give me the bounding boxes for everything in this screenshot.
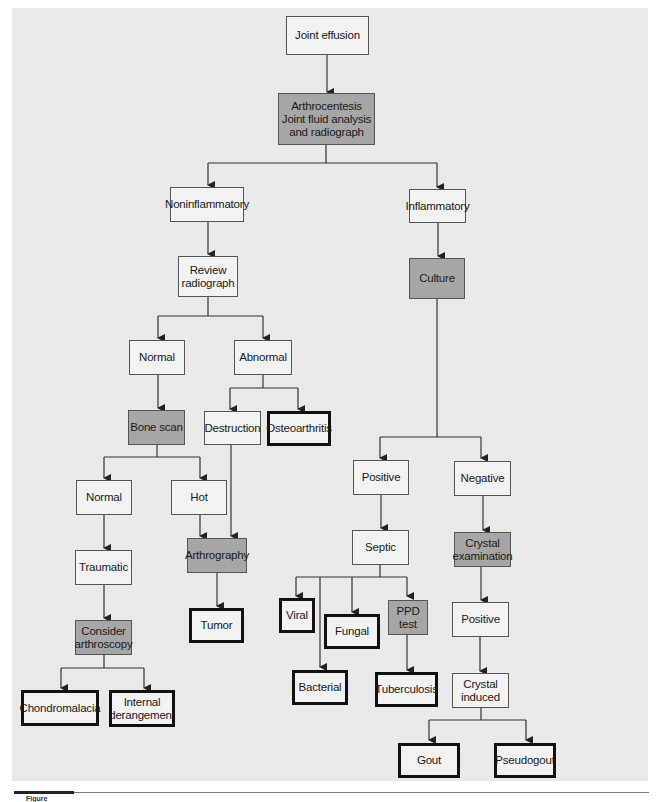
node-bacterial: Bacterial [292,670,348,705]
node-gout: Gout [398,743,460,778]
node-viral: Viral [279,598,315,633]
node-culture: Culture [409,258,465,299]
node-fungal: Fungal [324,614,380,649]
node-crystal-induced: Crystal induced [452,673,509,708]
node-tumor: Tumor [189,608,244,643]
node-crystal-examination: Crystal examination [454,532,511,567]
node-noninflammatory: Noninflammatory [170,187,244,222]
node-pseudogout: Pseudogout [494,743,556,778]
node-septic: Septic [352,530,409,565]
caption-rule-thin [74,792,649,793]
node-osteoarthritis: Osteoarthritis [267,411,331,446]
node-normal-radiograph: Normal [129,340,185,375]
node-hot: Hot [171,480,227,515]
node-bone-scan: Bone scan [128,410,185,445]
node-joint-effusion: Joint effusion [286,16,369,55]
caption-rule-thick [14,791,74,794]
node-positive-crystal: Positive [452,602,509,637]
node-normal-bone-scan: Normal [76,480,132,515]
node-chondromalacia: Chondromalacia [21,690,99,726]
node-ppd-test: PPD test [388,600,428,635]
node-positive-culture: Positive [353,460,409,495]
figure-caption: Figure [26,795,47,802]
node-tuberculosis: Tuberculosis [375,672,438,707]
node-internal-derangement: Internal derangement [109,690,175,727]
node-inflammatory: Inflammatory [409,189,466,223]
node-abnormal: Abnormal [234,340,292,375]
node-traumatic: Traumatic [75,550,132,585]
node-arthrocentesis: Arthrocentesis Joint fluid analysis and … [278,93,375,145]
node-negative: Negative [454,461,511,496]
node-destruction: Destruction [204,411,261,445]
node-arthrography: Arthrography [187,538,247,573]
node-consider-arthroscopy: Consider arthroscopy [75,620,132,655]
node-review-radiograph: Review radiograph [178,256,238,297]
